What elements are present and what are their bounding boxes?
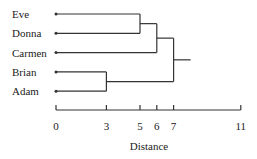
leaf-label: Carmen xyxy=(12,47,47,59)
x-tick-label: 3 xyxy=(104,120,110,132)
leaf-labels: EveDonnaCarmenBrianAdam xyxy=(12,8,58,97)
leaf-label: Brian xyxy=(12,66,37,78)
dendrogram-branches xyxy=(56,14,191,91)
dendrogram-chart: EveDonnaCarmenBrianAdam 0356711 Distance xyxy=(0,0,257,159)
x-tick-label: 6 xyxy=(154,120,160,132)
x-axis-title: Distance xyxy=(130,140,169,152)
x-tick-label: 5 xyxy=(137,120,143,132)
leaf-label: Donna xyxy=(12,27,41,39)
leaf-label: Adam xyxy=(12,85,39,97)
leaf-label: Eve xyxy=(12,8,29,20)
x-axis: 0356711 xyxy=(53,105,246,132)
x-tick-label: 7 xyxy=(171,120,177,132)
x-tick-label: 0 xyxy=(53,120,59,132)
x-tick-label: 11 xyxy=(236,120,247,132)
